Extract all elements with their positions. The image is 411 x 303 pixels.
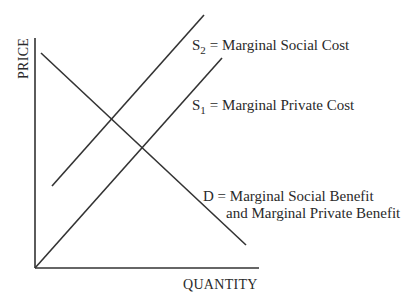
s1-label: S1= Marginal Private Cost	[192, 97, 355, 116]
s1-symbol: S	[192, 97, 200, 113]
supply-curve-s1	[35, 58, 222, 268]
d-label-line1: D = Marginal Social Benefit	[203, 188, 374, 204]
demand-curve-d	[41, 53, 246, 245]
s1-description: = Marginal Private Cost	[210, 97, 355, 113]
s2-subscript: 2	[200, 44, 206, 56]
x-axis-label: QUANTITY	[183, 277, 258, 292]
s2-label: S2= Marginal Social Cost	[192, 37, 350, 56]
externality-diagram: PRICE QUANTITY S2= Marginal Social Cost …	[0, 0, 411, 303]
s2-description: = Marginal Social Cost	[210, 37, 350, 53]
supply-curve-s2	[52, 15, 204, 186]
s2-symbol: S	[192, 37, 200, 53]
y-axis-label: PRICE	[16, 38, 31, 79]
d-label-line2: and Marginal Private Benefit	[226, 205, 401, 221]
s1-subscript: 1	[200, 104, 206, 116]
